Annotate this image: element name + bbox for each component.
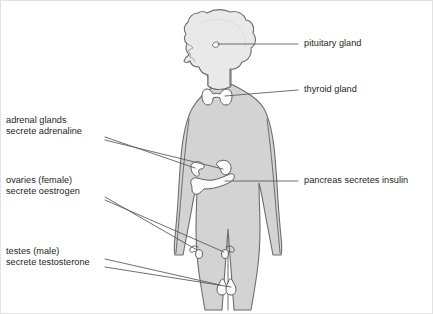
label-adrenal-glands: adrenal glands secrete adrenaline [6, 115, 82, 138]
label-ovaries-line-1: ovaries (female) [6, 175, 80, 186]
label-thyroid-gland-line-1: thyroid gland [304, 84, 357, 95]
body-silhouette [174, 10, 282, 310]
label-testes-line-2: secrete testosterone [6, 257, 90, 268]
diagram-canvas: pituitary gland thyroid gland pancreas s… [0, 0, 433, 314]
label-pancreas-line-1: pancreas secretes insulin [304, 175, 408, 186]
label-thyroid-gland: thyroid gland [304, 84, 357, 95]
label-testes: testes (male) secrete testosterone [6, 246, 90, 269]
label-testes-line-1: testes (male) [6, 246, 90, 257]
label-pancreas: pancreas secretes insulin [304, 175, 408, 186]
label-ovaries: ovaries (female) secrete oestrogen [6, 175, 80, 198]
label-adrenal-glands-line-2: secrete adrenaline [6, 126, 82, 137]
label-adrenal-glands-line-1: adrenal glands [6, 115, 82, 126]
label-pituitary-gland: pituitary gland [304, 38, 362, 49]
label-pituitary-gland-line-1: pituitary gland [304, 38, 362, 49]
label-ovaries-line-2: secrete oestrogen [6, 186, 80, 197]
